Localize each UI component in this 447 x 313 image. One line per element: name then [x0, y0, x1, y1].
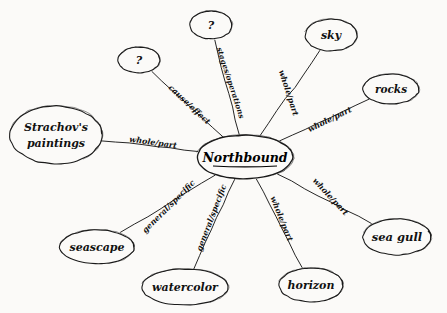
- node-label-question-top: ?: [208, 19, 215, 32]
- node-label-northbound: Northbound: [201, 150, 287, 165]
- node-label-strachovs-paintings: Strachov's: [24, 121, 88, 134]
- edge-label-seascape: general/specific: [140, 178, 197, 235]
- northbound-underline: [213, 166, 277, 167]
- edge-label-watercolor: general/specific: [194, 183, 229, 253]
- node-question-top[interactable]: ?: [190, 11, 233, 39]
- node-label2-strachovs-paintings: paintings: [27, 137, 85, 150]
- node-seascape[interactable]: seascape: [59, 230, 134, 264]
- edge-label-question-left: cause/effect: [167, 82, 213, 126]
- node-strachovs-paintings[interactable]: Strachov'spaintings: [10, 105, 103, 164]
- edge-label-rocks: whole/part: [306, 104, 354, 134]
- node-question-left[interactable]: ?: [118, 47, 160, 73]
- concept-map-canvas: ??skyrockssea gullhorizonwatercolorseasc…: [0, 0, 447, 313]
- node-watercolor[interactable]: watercolor: [142, 269, 229, 305]
- node-label-horizon: horizon: [288, 279, 335, 292]
- node-horizon[interactable]: horizon: [279, 267, 344, 302]
- concept-map-diagram: ??skyrockssea gullhorizonwatercolorseasc…: [0, 0, 447, 313]
- node-label-sea-gull: sea gull: [372, 230, 423, 244]
- edge-label-question-top: stages/operations: [215, 46, 247, 120]
- edge-label-sea-gull: whole/part: [311, 175, 351, 217]
- node-label-seascape: seascape: [69, 241, 124, 254]
- edge-label-sky: whole/part: [277, 68, 301, 117]
- node-label-watercolor: watercolor: [152, 281, 219, 294]
- edge-label-strachovs-paintings: whole/part: [129, 134, 178, 151]
- node-rocks[interactable]: rocks: [363, 74, 420, 104]
- node-sea-gull[interactable]: sea gull: [363, 219, 432, 256]
- node-northbound[interactable]: Northbound: [197, 135, 294, 179]
- node-label-rocks: rocks: [375, 83, 407, 95]
- node-label-question-left: ?: [136, 54, 143, 67]
- edge-label-horizon: whole/part: [268, 195, 295, 243]
- node-sky[interactable]: sky: [305, 19, 358, 51]
- node-label-sky: sky: [321, 29, 343, 42]
